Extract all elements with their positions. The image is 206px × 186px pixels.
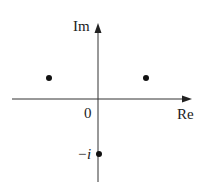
im-axis-label: Im bbox=[73, 18, 90, 34]
diagram-canvas: Im Re 0 −i bbox=[0, 0, 206, 186]
real-axis-arrow-icon bbox=[182, 96, 192, 103]
origin-label: 0 bbox=[84, 105, 92, 121]
minus-i-label: −i bbox=[77, 146, 91, 162]
point-upper-right bbox=[143, 75, 149, 81]
point-upper-left bbox=[46, 75, 52, 81]
point-minus-i bbox=[96, 151, 102, 157]
imaginary-axis-arrow-icon bbox=[95, 23, 102, 33]
re-axis-label: Re bbox=[177, 106, 194, 122]
complex-plane-diagram: Im Re 0 −i bbox=[0, 0, 206, 186]
